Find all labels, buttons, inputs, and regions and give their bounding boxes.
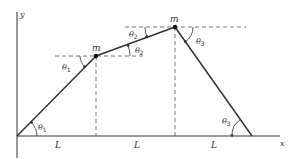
angle-label-theta2-mass1: θ2 bbox=[135, 46, 144, 56]
string-segment-1 bbox=[17, 56, 96, 136]
string-segment-3 bbox=[175, 27, 252, 136]
spacing-label-3: L bbox=[210, 140, 217, 150]
x-axis-label: x bbox=[280, 139, 285, 148]
angle-arc-theta1-mass1 bbox=[80, 56, 85, 67]
angle-label-theta1-origin: θ1 bbox=[38, 123, 47, 133]
angle-label-theta1-mass1: θ1 bbox=[62, 63, 71, 73]
angle-label-theta2-mass2: θ2 bbox=[129, 30, 138, 40]
spacing-label-2: L bbox=[133, 140, 140, 150]
mass-2-dot bbox=[173, 25, 177, 29]
angle-arc-theta2-mass1 bbox=[128, 45, 130, 56]
mass-1-dot bbox=[94, 54, 98, 58]
angle-label-theta3-support: θ3 bbox=[222, 117, 231, 127]
y-axis-label: y bbox=[19, 10, 25, 19]
angle-arc-theta1-origin bbox=[31, 122, 37, 136]
angle-arc-theta3-mass2 bbox=[185, 27, 193, 42]
spacing-label-1: L bbox=[54, 140, 61, 150]
mass-2-label: m bbox=[170, 14, 179, 24]
angle-arc-theta2-mass2 bbox=[145, 27, 147, 37]
angle-label-theta3-mass2: θ3 bbox=[196, 37, 205, 47]
angle-arc-theta3-support bbox=[232, 120, 240, 136]
string-masses-diagram: y x m m θ1 θ1 θ2 θ2 θ3 θ3 L L L bbox=[0, 0, 296, 159]
mass-1-label: m bbox=[92, 43, 101, 53]
